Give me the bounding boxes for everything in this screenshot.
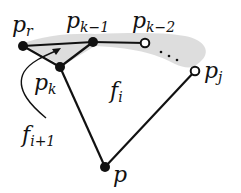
label-p-k: pk [34, 70, 57, 97]
edge-pk1-pk2 [93, 42, 145, 43]
label-p-k-minus-2: pk−2 [132, 8, 175, 35]
edge-pk-p [60, 67, 105, 167]
label-p: p [113, 162, 127, 187]
node-p-k [55, 62, 65, 72]
polygon-diagram: pr pk−1 pk−2 pk pj p fi fi+1 [0, 0, 241, 193]
node-p-k-minus-2 [141, 39, 150, 48]
label-f-i-plus-1: fi+1 [20, 122, 55, 149]
label-p-j: pj [204, 58, 223, 85]
label-f-i: fi [108, 78, 123, 105]
node-p-j [191, 67, 200, 76]
label-p-r: pr [12, 12, 34, 39]
label-p-k-minus-1: pk−1 [66, 8, 109, 35]
node-p-k-minus-1 [88, 37, 98, 47]
node-p [100, 162, 110, 172]
edge-p-pj [105, 71, 195, 167]
node-p-r [18, 41, 28, 51]
